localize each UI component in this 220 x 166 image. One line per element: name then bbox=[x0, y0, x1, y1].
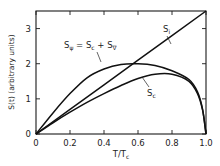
annotation-spsi: Sψ = Sc + S∇ bbox=[64, 40, 118, 52]
x-tick-label: 0.4 bbox=[97, 138, 111, 148]
y-tick-label: 0 bbox=[26, 129, 31, 139]
x-tick-label: 0.8 bbox=[165, 138, 179, 148]
y-tick-label: 3 bbox=[26, 24, 31, 34]
x-axis-label: T/Tc bbox=[112, 149, 130, 160]
series-spsi-line bbox=[36, 64, 206, 134]
x-tick-label: 0.2 bbox=[63, 138, 77, 148]
chart: 00.20.40.60.81.00123 Si Sψ = Sc + S∇ Sc … bbox=[0, 0, 220, 166]
series-si-line bbox=[36, 11, 206, 134]
x-tick-label: 0.6 bbox=[131, 138, 145, 148]
x-tick-label: 1.0 bbox=[199, 138, 213, 148]
y-tick-label: 1 bbox=[26, 94, 31, 104]
annotation-sc: Sc bbox=[147, 88, 156, 99]
y-axis-label: S(t) (arbitrary units) bbox=[7, 34, 16, 109]
leader-spsi bbox=[97, 52, 101, 62]
x-tick-label: 0 bbox=[33, 138, 38, 148]
leader-sc bbox=[142, 77, 149, 87]
y-tick-label: 2 bbox=[26, 59, 31, 69]
annotation-si: Si bbox=[163, 24, 170, 35]
